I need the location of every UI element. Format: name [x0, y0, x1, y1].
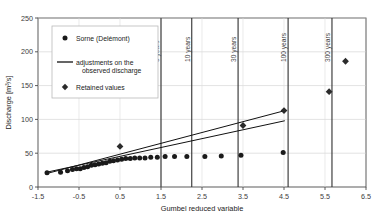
observed-data-point [143, 155, 148, 160]
x-axis-tick-label: -0.5 [73, 192, 85, 201]
observed-data-point [45, 170, 50, 175]
legend-label-retained: Retained values [76, 84, 125, 91]
y-axis-tick-label: 200 [21, 47, 33, 56]
observed-data-point [148, 155, 153, 160]
observed-data-point [155, 155, 160, 160]
observed-data-point [132, 155, 137, 160]
y-axis-tick-label: 250 [21, 14, 33, 23]
observed-data-point [137, 155, 142, 160]
observed-data-point [58, 170, 63, 175]
chart-canvas: 5 years10 years30 years100 years300 year… [0, 0, 374, 223]
observed-data-point [202, 154, 207, 159]
x-axis-tick-label: 0.5 [115, 192, 125, 201]
y-axis-tick-label: 150 [21, 81, 33, 90]
x-axis-title: Gumbel reduced variable [161, 204, 244, 213]
x-axis-tick-label: 2.5 [197, 192, 207, 201]
x-axis-tick-label: 5.5 [320, 192, 330, 201]
legend-label-adjustments-2: observed discharge [82, 67, 142, 75]
observed-data-point [238, 153, 243, 158]
y-axis-tick-label: 50 [25, 149, 33, 158]
return-period-label: 300 years [324, 32, 332, 62]
y-axis-title: Discharge [m³/s] [4, 76, 13, 130]
observed-data-point [172, 154, 177, 159]
return-period-label: 30 years [230, 36, 238, 62]
y-axis-tick-label: 0 [29, 183, 33, 192]
x-axis-tick-label: 6.5 [361, 192, 371, 201]
observed-data-point [128, 156, 133, 161]
observed-data-point [65, 168, 70, 173]
x-axis-tick-label: 4.5 [279, 192, 289, 201]
return-period-label: 100 years [280, 32, 288, 62]
observed-data-point [219, 153, 224, 158]
return-period-label: 10 years [184, 36, 192, 62]
gumbel-discharge-chart: 5 years10 years30 years100 years300 year… [0, 0, 374, 223]
x-axis-tick-label: 1.5 [156, 192, 166, 201]
legend-label-sorne: Sorne (Delémont) [76, 35, 130, 43]
observed-data-point [163, 154, 168, 159]
x-axis-tick-label: -1.5 [32, 192, 44, 201]
y-axis-tick-label: 100 [21, 115, 33, 124]
legend-marker-circle [63, 36, 68, 41]
observed-data-point [184, 154, 189, 159]
observed-data-point [123, 156, 128, 161]
x-axis-tick-label: 3.5 [238, 192, 248, 201]
legend-label-adjustments-1: adjustments on the [76, 59, 134, 67]
observed-data-point [281, 150, 286, 155]
